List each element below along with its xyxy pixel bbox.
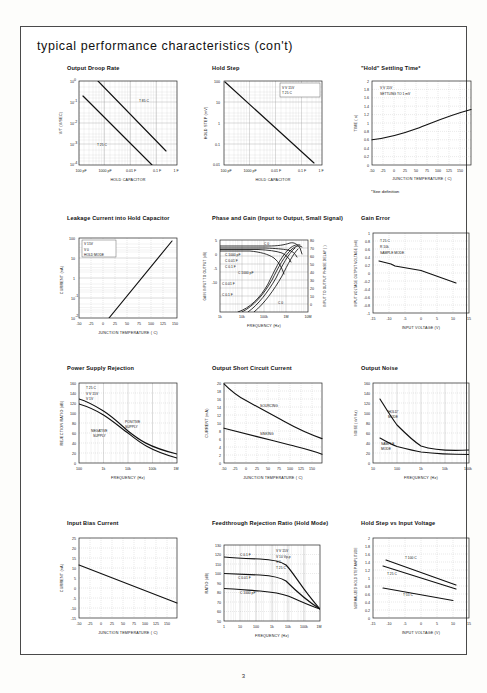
y-tick-labels: 100 10 1 0.1 0.01 <box>213 80 220 167</box>
svg-text:1.2: 1.2 <box>364 113 369 117</box>
y-axis-label: CURRENT (mA) <box>205 408 209 437</box>
chart-gain-error: Gain Error <box>347 215 487 365</box>
svg-text:-1: -1 <box>75 294 78 298</box>
svg-text:NEGATIVE: NEGATIVE <box>91 429 108 433</box>
chart-title: Phase and Gain (Input to Output, Small S… <box>212 215 343 230</box>
x-tick-labels: -50-25 025 5075 100125 150 <box>369 169 463 173</box>
x-tick-labels: 1001k 10k100k 1M <box>76 467 179 471</box>
svg-text:1.8: 1.8 <box>365 545 370 549</box>
svg-text:MODE: MODE <box>388 415 399 419</box>
svg-text:0.4: 0.4 <box>364 147 369 151</box>
conditions-text: V V 15V V 10 Vp-p V 0 T 25 C <box>276 549 291 570</box>
svg-text:80: 80 <box>217 591 221 595</box>
y-axis-label: TIME ( s) <box>354 115 358 132</box>
svg-text:T 100 C: T 100 C <box>405 556 417 560</box>
conditions-text: V V 15V SETTLING TO 1 mV <box>380 86 411 96</box>
x-axis-label: INPUT VOLTAGE (V) <box>402 326 440 330</box>
chart-row-3: Power Supply Rejection <box>35 365 456 515</box>
svg-text:V V 15V: V V 15V <box>276 549 289 553</box>
svg-text:100k: 100k <box>464 467 472 471</box>
svg-text:POSITIVE: POSITIVE <box>125 420 141 424</box>
svg-text:40: 40 <box>72 442 76 446</box>
y-axis-label: NOISE (nV/ Hz) <box>354 410 358 435</box>
svg-text:1M: 1M <box>174 467 179 471</box>
svg-text:100: 100 <box>142 622 148 626</box>
svg-text:1: 1 <box>73 277 75 281</box>
svg-text:100: 100 <box>70 412 76 416</box>
svg-text:MODE: MODE <box>381 447 392 451</box>
chart-input-bias-current: Input Bias Current <box>53 520 198 670</box>
x-axis-label: INPUT VOLTAGE (V) <box>402 631 440 635</box>
svg-text:-0.2: -0.2 <box>364 280 370 284</box>
svg-text:1000 pF: 1000 pF <box>243 169 257 173</box>
svg-text:V V 15V: V V 15V <box>86 392 99 396</box>
svg-text:0: 0 <box>215 253 217 257</box>
svg-text:SETTLING TO 1 mV: SETTLING TO 1 mV <box>380 92 411 96</box>
svg-text:V 0: V 0 <box>84 248 89 252</box>
svg-text:20: 20 <box>217 382 221 386</box>
datasheet-page: typical performance characteristics (con… <box>0 0 487 693</box>
svg-text:2: 2 <box>367 80 369 84</box>
svg-text:SUPPLY: SUPPLY <box>93 434 107 438</box>
svg-text:14: 14 <box>217 406 221 410</box>
svg-text:-10: -10 <box>386 622 391 626</box>
svg-text:100 pF: 100 pF <box>75 169 87 173</box>
svg-text:100: 100 <box>287 467 293 471</box>
svg-text:0: 0 <box>420 622 422 626</box>
svg-text:-50: -50 <box>369 169 374 173</box>
y-tick-labels: 100 10-1 10-2 10-3 10-4 <box>70 78 77 168</box>
gain-error-curve <box>379 261 456 283</box>
y-axis-label: CURRENT (nA) <box>60 564 64 592</box>
svg-text:20: 20 <box>366 452 370 456</box>
svg-text:20: 20 <box>72 547 76 551</box>
chart-title: Feedthrough Rejection Ratio (Hold Mode) <box>212 520 343 535</box>
svg-text:50: 50 <box>121 622 125 626</box>
x-axis-label: JUNCTION TEMPERATURE ( C) <box>98 631 157 635</box>
svg-text:0.1 F: 0.1 F <box>298 169 307 173</box>
y-tick-labels: 160140 120100 8060 4020 0 <box>70 382 76 466</box>
svg-text:0.6: 0.6 <box>365 248 370 252</box>
svg-text:C 0.1 F: C 0.1 F <box>222 293 233 297</box>
svg-text:40: 40 <box>310 271 314 275</box>
svg-text:100: 100 <box>69 237 75 241</box>
svg-text:T 25 C: T 25 C <box>86 386 96 390</box>
svg-text:C 0.1 F: C 0.1 F <box>240 553 251 557</box>
x-tick-labels: 100 pF 1000 pF 0.01 F 0.1 F 1 F <box>75 169 179 173</box>
y-tick-labels: 2520 1510 50 -5-10 -15 <box>71 537 76 621</box>
svg-text:SUPPLY: SUPPLY <box>125 425 139 429</box>
svg-text:2: 2 <box>219 454 221 458</box>
svg-text:140: 140 <box>364 392 370 396</box>
charts-grid: Output Droop Rate <box>35 65 456 640</box>
svg-text:100: 100 <box>76 467 82 471</box>
y-axis-label: INPUT VOLTAGE OUTPUT VOLTAGE (mV) <box>354 240 358 307</box>
svg-text:0: 0 <box>102 322 104 326</box>
svg-text:0.1: 0.1 <box>215 143 220 147</box>
svg-text:0: 0 <box>74 78 76 82</box>
svg-text:0.01: 0.01 <box>213 163 220 167</box>
svg-text:10: 10 <box>238 625 242 629</box>
svg-text:60: 60 <box>72 432 76 436</box>
page-number: 3 <box>0 673 487 679</box>
y-axis-label-left: GAIN INPUT TO OUTPUT (dB) <box>203 251 207 300</box>
svg-text:5: 5 <box>436 317 438 321</box>
svg-text:0.4: 0.4 <box>365 601 370 605</box>
svg-text:1.6: 1.6 <box>365 553 370 557</box>
svg-text:100: 100 <box>394 467 400 471</box>
chart-title: Output Droop Rate <box>67 65 198 73</box>
svg-text:0: 0 <box>368 462 370 466</box>
x-axis-label: FREQUENCY (Hz) <box>111 476 145 480</box>
svg-text:-10: -10 <box>212 281 217 285</box>
chart-row-4: Input Bias Current <box>35 520 456 670</box>
y-axis-label: CURRENT (nA) <box>60 266 64 294</box>
svg-text:40: 40 <box>366 442 370 446</box>
svg-text:0: 0 <box>367 164 369 168</box>
chart-title: Input Bias Current <box>67 520 198 528</box>
y-tick-labels-right: 8070 6050 4030 2010 0 <box>310 239 314 307</box>
svg-text:125: 125 <box>153 622 159 626</box>
svg-text:10M: 10M <box>305 315 312 319</box>
svg-text:75: 75 <box>277 467 281 471</box>
svg-text:C 0: C 0 <box>278 301 283 305</box>
svg-text:T 25 C: T 25 C <box>276 566 286 570</box>
y-tick-labels: 160140 120100 8060 4020 0 <box>364 382 370 466</box>
svg-text:10: 10 <box>451 317 455 321</box>
